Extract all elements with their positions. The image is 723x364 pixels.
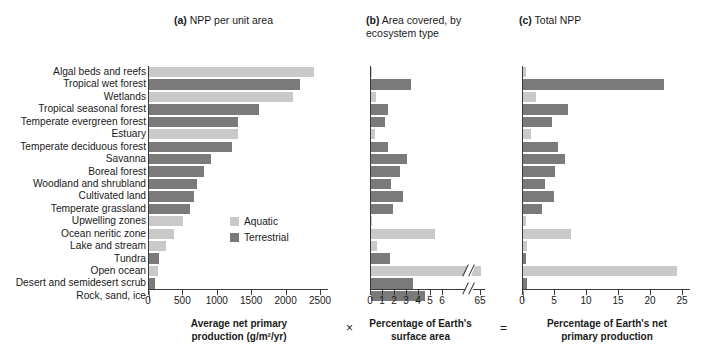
npp-figure: (a) NPP per unit area (b) Area covered, …: [0, 0, 723, 364]
axis-tick: [370, 290, 371, 295]
axis-tick: [480, 290, 481, 295]
bar-row: [523, 203, 690, 215]
bar: [523, 253, 526, 263]
category-label: Woodland and shrubland: [0, 178, 148, 190]
bar-row: [371, 141, 445, 153]
bar: [523, 117, 552, 127]
bar-row: [523, 265, 690, 277]
bar: [523, 129, 531, 139]
bar: [523, 154, 565, 164]
bar: [371, 216, 372, 226]
bar: [149, 129, 238, 139]
panel-a-axis-caption: Average net primary production (g/m²/yr): [158, 318, 320, 343]
legend-label: Terrestrial: [244, 232, 289, 243]
bar-row: [149, 190, 328, 202]
bar: [149, 241, 166, 251]
legend-item: Aquatic: [230, 214, 289, 228]
bar-row: [523, 103, 690, 115]
axis-tick-label: 0: [519, 295, 525, 306]
bar-row: [523, 240, 690, 252]
axis-tick: [682, 290, 683, 295]
bar: [149, 266, 158, 276]
bar: [523, 79, 664, 89]
axis-tick: [586, 290, 587, 295]
panel-c-title: (c) Total NPP: [519, 14, 581, 27]
legend-swatch: [230, 233, 239, 242]
bar: [523, 216, 526, 226]
bar: [371, 166, 400, 176]
bar: [149, 104, 259, 114]
category-label: Wetlands: [0, 91, 148, 103]
axis-tick-label: 0: [367, 295, 373, 306]
axis-tick: [148, 290, 149, 295]
bar-row: [371, 277, 445, 289]
panel-c-marker: (c): [519, 14, 532, 26]
panel-a-bars: [149, 66, 328, 302]
panel-c-bars: [523, 66, 690, 302]
axis-tick-label: 5: [427, 295, 433, 306]
bar: [371, 142, 388, 152]
bar-row: [371, 240, 445, 252]
bar: [523, 229, 571, 239]
bar-row: [371, 215, 445, 227]
axis-tick: [382, 290, 383, 295]
category-label: Open ocean: [0, 265, 148, 277]
bar-row: [149, 78, 328, 90]
bar: [371, 241, 377, 251]
category-label: Tropical seasonal forest: [0, 103, 148, 115]
panel-b-bars: [371, 66, 445, 302]
multiply-operator: ×: [346, 321, 353, 335]
bar: [371, 191, 403, 201]
axis-tick-label: 5: [551, 295, 557, 306]
panel-b-axis-caption: Percentage of Earth's surface area: [358, 318, 483, 343]
bar: [149, 216, 183, 226]
category-label: Desert and semidesert scrub: [0, 277, 148, 289]
axis-tick-label: 4: [415, 295, 421, 306]
axis-tick-label: 2: [391, 295, 397, 306]
category-label: Temperate grassland: [0, 203, 148, 215]
axis-tick: [650, 290, 651, 295]
bar: [371, 104, 388, 114]
category-label-list: Algal beds and reefsTropical wet forestW…: [0, 66, 148, 302]
legend: AquaticTerrestrial: [230, 214, 289, 246]
category-label: Lake and stream: [0, 240, 148, 252]
bar: [149, 179, 197, 189]
bar: [523, 179, 545, 189]
axis-tick: [286, 290, 287, 295]
bar-row: [371, 153, 445, 165]
bar: [149, 229, 174, 239]
legend-label: Aquatic: [244, 216, 278, 227]
bar: [523, 67, 526, 77]
bar-row: [149, 141, 328, 153]
panel-a-title: (a) NPP per unit area: [174, 14, 273, 27]
category-label: Savanna: [0, 153, 148, 165]
axis-tick: [406, 290, 407, 295]
legend-swatch: [230, 217, 239, 226]
bar-row: [371, 203, 445, 215]
bar: [371, 129, 375, 139]
axis-tick: [554, 290, 555, 295]
bar-row: [371, 91, 445, 103]
bar-row: [371, 103, 445, 115]
bar: [371, 79, 411, 89]
bar-row: [371, 116, 445, 128]
axis-tick-label: 20: [644, 295, 655, 306]
bar: [523, 266, 677, 276]
bar: [371, 179, 391, 189]
bar-row: [523, 190, 690, 202]
bar-row: [523, 253, 690, 265]
panel-b: 012345665: [370, 66, 445, 290]
bar-row: [523, 277, 690, 289]
legend-item: Terrestrial: [230, 230, 289, 244]
bar-row: [523, 116, 690, 128]
bar-row: [149, 153, 328, 165]
bar-row: [371, 228, 445, 240]
bar: [149, 117, 238, 127]
bar-row: [149, 253, 328, 265]
bar-row: [523, 78, 690, 90]
axis-tick: [442, 290, 443, 295]
axis-tick: [394, 290, 395, 295]
bar: [523, 241, 527, 251]
bar: [149, 166, 204, 176]
panel-a-title-text: NPP per unit area: [190, 14, 273, 26]
